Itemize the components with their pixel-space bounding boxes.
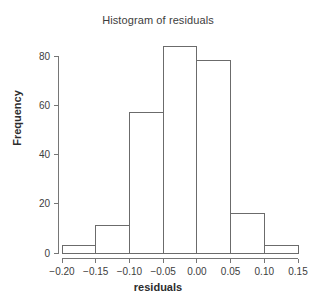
y-axis-title: Frequency bbox=[11, 68, 23, 168]
bars-group bbox=[62, 46, 298, 253]
y-axis-tick-label: 0 bbox=[44, 248, 50, 259]
x-axis-tick-label: −0.05 bbox=[150, 266, 176, 277]
x-axis-tick-label: 0.00 bbox=[187, 266, 207, 277]
histogram-figure: Histogram of residuals 020406080−0.20−0.… bbox=[0, 0, 316, 304]
histogram-bar bbox=[129, 113, 163, 253]
y-axis-tick-label: 60 bbox=[39, 100, 51, 111]
x-axis-tick-label: 0.15 bbox=[288, 266, 308, 277]
x-axis-tick-label: −0.15 bbox=[83, 266, 109, 277]
histogram-bar bbox=[96, 226, 130, 253]
y-axis-tick-label: 40 bbox=[39, 149, 51, 160]
x-axis-tick-label: −0.10 bbox=[117, 266, 143, 277]
x-axis-tick-label: 0.10 bbox=[255, 266, 275, 277]
x-axis-title: residuals bbox=[0, 281, 316, 293]
y-axis-tick-label: 20 bbox=[39, 198, 51, 209]
histogram-bar bbox=[197, 61, 231, 253]
plot-area: 020406080−0.20−0.15−0.10−0.050.000.050.1… bbox=[0, 0, 316, 304]
x-axis-tick-label: −0.20 bbox=[49, 266, 75, 277]
histogram-bar bbox=[264, 246, 298, 253]
histogram-bar bbox=[62, 246, 96, 253]
x-axis-tick-label: 0.05 bbox=[221, 266, 241, 277]
histogram-bar bbox=[163, 46, 197, 253]
histogram-bar bbox=[231, 214, 265, 253]
y-axis-tick-label: 80 bbox=[39, 51, 51, 62]
